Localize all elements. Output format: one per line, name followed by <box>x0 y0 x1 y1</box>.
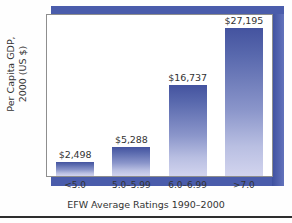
bar <box>169 85 207 176</box>
bar <box>112 147 150 176</box>
y-axis-title-line2: 2000 (US $) <box>17 46 28 103</box>
bar <box>225 28 263 176</box>
bar-value-label: $16,737 <box>153 72 223 83</box>
chart-figure: Per Capita GDP, 2000 (US $) EFW Average … <box>0 0 292 223</box>
bar-value-label: $5,288 <box>96 134 166 145</box>
x-axis-tick-label: >7.0 <box>209 180 279 190</box>
y-axis-title-line1: Per Capita GDP, <box>5 36 16 111</box>
bottom-divider <box>0 216 292 218</box>
bar-value-label: $2,498 <box>40 149 110 160</box>
x-axis-title: EFW Average Ratings 1990–2000 <box>0 199 292 210</box>
y-axis-title: Per Capita GDP, 2000 (US $) <box>5 14 29 134</box>
decorative-frame-shadow <box>272 14 284 186</box>
bar-value-label: $27,195 <box>209 15 279 26</box>
bar <box>56 162 94 176</box>
